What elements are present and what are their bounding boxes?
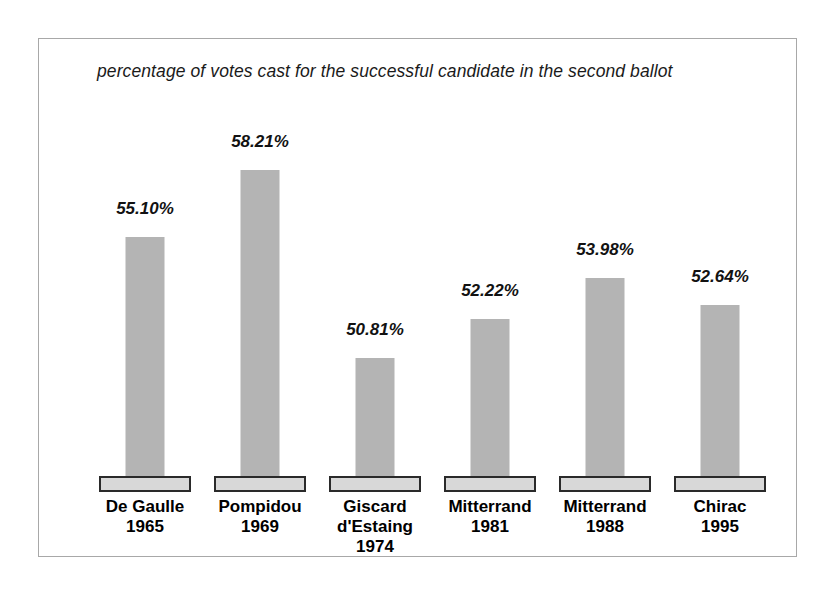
category-label-mitterrand-1981: Mitterrand 1981 [438, 497, 542, 537]
bar-de-gaulle-1965[interactable] [126, 237, 165, 478]
bar-group-mitterrand-1981: 52.22% Mitterrand 1981 [444, 39, 536, 556]
bar-value-label: 53.98% [559, 240, 651, 260]
category-year: 1965 [93, 517, 197, 537]
category-year: 1995 [668, 517, 772, 537]
category-label-chirac-1995: Chirac 1995 [668, 497, 772, 537]
category-label-mitterrand-1988: Mitterrand 1988 [553, 497, 657, 537]
bar-pedestal [559, 476, 651, 492]
bar-pedestal [329, 476, 421, 492]
bar-pompidou-1969[interactable] [241, 170, 280, 478]
category-name: Pompidou [208, 497, 312, 517]
bar-chirac-1995[interactable] [701, 305, 740, 478]
bar-group-de-gaulle-1965: 55.10% De Gaulle 1965 [99, 39, 191, 556]
chart-figure: percentage of votes cast for the success… [38, 38, 797, 557]
category-name: Mitterrand [438, 497, 542, 517]
category-year: 1988 [553, 517, 657, 537]
bar-value-label: 52.64% [674, 267, 766, 287]
bar-value-label: 52.22% [444, 281, 536, 301]
category-name-line2: d'Estaing [323, 517, 427, 537]
bar-value-label: 55.10% [99, 199, 191, 219]
category-name: Chirac [668, 497, 772, 517]
bar-pedestal [444, 476, 536, 492]
bar-mitterrand-1981[interactable] [471, 319, 510, 478]
category-name: Mitterrand [553, 497, 657, 517]
category-year: 1981 [438, 517, 542, 537]
category-label-pompidou-1969: Pompidou 1969 [208, 497, 312, 537]
bar-pedestal [99, 476, 191, 492]
category-name: De Gaulle [93, 497, 197, 517]
category-name: Giscard [323, 497, 427, 517]
category-year: 1969 [208, 517, 312, 537]
bar-giscard-destaing-1974[interactable] [356, 358, 395, 478]
bar-mitterrand-1988[interactable] [586, 278, 625, 478]
bar-group-mitterrand-1988: 53.98% Mitterrand 1988 [559, 39, 651, 556]
bar-pedestal [214, 476, 306, 492]
category-year: 1974 [323, 537, 427, 557]
bar-group-giscard-destaing-1974: 50.81% Giscard d'Estaing 1974 [329, 39, 421, 556]
bar-group-pompidou-1969: 58.21% Pompidou 1969 [214, 39, 306, 556]
bar-value-label: 58.21% [214, 132, 306, 152]
plot-area: 55.10% De Gaulle 1965 58.21% Pompidou 19… [39, 39, 796, 556]
category-label-giscard-destaing-1974: Giscard d'Estaing 1974 [323, 497, 427, 557]
bar-group-chirac-1995: 52.64% Chirac 1995 [674, 39, 766, 556]
category-label-de-gaulle-1965: De Gaulle 1965 [93, 497, 197, 537]
bar-value-label: 50.81% [329, 320, 421, 340]
bar-pedestal [674, 476, 766, 492]
